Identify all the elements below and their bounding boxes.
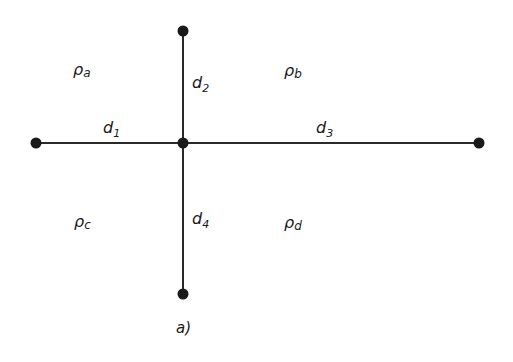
node-right [474, 138, 485, 149]
node-center [178, 138, 189, 149]
edge-label-d2: d2 [192, 73, 209, 95]
edge-label-d4: d4 [192, 209, 209, 231]
region-label-rho-b: ρb [284, 61, 302, 81]
resistivity-cross-diagram: d1 d2 d3 d4 ρa ρb ρc ρd a) [0, 0, 513, 362]
node-left [31, 138, 42, 149]
region-label-rho-d: ρd [284, 213, 302, 233]
node-top [178, 26, 189, 37]
node-bottom [178, 289, 189, 300]
region-label-rho-c: ρc [74, 212, 91, 232]
edge-label-d3: d3 [316, 118, 333, 140]
figure-caption: a) [176, 319, 191, 337]
region-label-rho-a: ρa [73, 60, 91, 80]
edge-label-d1: d1 [103, 118, 120, 140]
